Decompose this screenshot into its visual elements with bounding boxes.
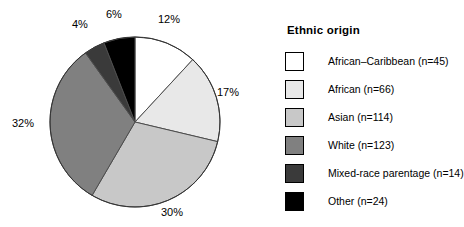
legend-item-label: African (n=66) — [328, 83, 394, 95]
legend-item: White (n=123) — [285, 134, 446, 156]
slice-value-label-asian: 30% — [161, 206, 183, 218]
legend-item-label: Asian (n=114) — [328, 111, 393, 123]
slice-value-label-african: 17% — [217, 86, 239, 98]
legend-swatch — [285, 52, 304, 71]
slice-value-label-other: 6% — [106, 8, 122, 20]
legend-item-label: White (n=123) — [328, 139, 394, 151]
legend-item-label: Mixed-race parentage (n=14) — [328, 167, 464, 179]
legend-item: Mixed-race parentage (n=14) — [285, 162, 446, 184]
legend-item-label: Other (n=24) — [328, 195, 388, 207]
legend-swatch — [285, 136, 304, 155]
pie-plot-area: 12% 17% 30% 32% 4% 6% — [0, 0, 260, 227]
legend-item: Asian (n=114) — [285, 106, 446, 128]
legend-item-label: African–Caribbean (n=45) — [328, 55, 449, 67]
legend-swatch — [285, 164, 304, 183]
legend-item: African (n=66) — [285, 78, 446, 100]
slice-value-label-african-caribbean: 12% — [158, 13, 180, 25]
pie-svg — [0, 0, 260, 227]
legend-item: Other (n=24) — [285, 190, 446, 212]
slice-value-label-mixed-race: 4% — [72, 18, 88, 30]
legend-swatch — [285, 192, 304, 211]
legend-swatch — [285, 108, 304, 127]
legend-title: Ethnic origin — [287, 24, 360, 36]
legend-swatch — [285, 80, 304, 99]
legend: Ethnic origin African–Caribbean (n=45)Af… — [285, 24, 446, 214]
pie-slices — [50, 37, 220, 207]
legend-item: African–Caribbean (n=45) — [285, 50, 446, 72]
slice-value-label-white: 32% — [12, 117, 34, 129]
